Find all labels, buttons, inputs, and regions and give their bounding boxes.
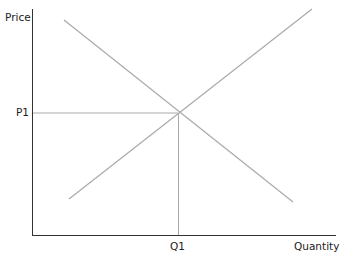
supply-demand-diagram xyxy=(0,0,346,257)
quantity-q1-label: Q1 xyxy=(170,240,185,252)
price-p1-label: P1 xyxy=(16,106,29,118)
x-axis-label: Quantity xyxy=(294,240,339,252)
supply-curve xyxy=(69,9,312,199)
y-axis-label: Price xyxy=(5,11,31,23)
